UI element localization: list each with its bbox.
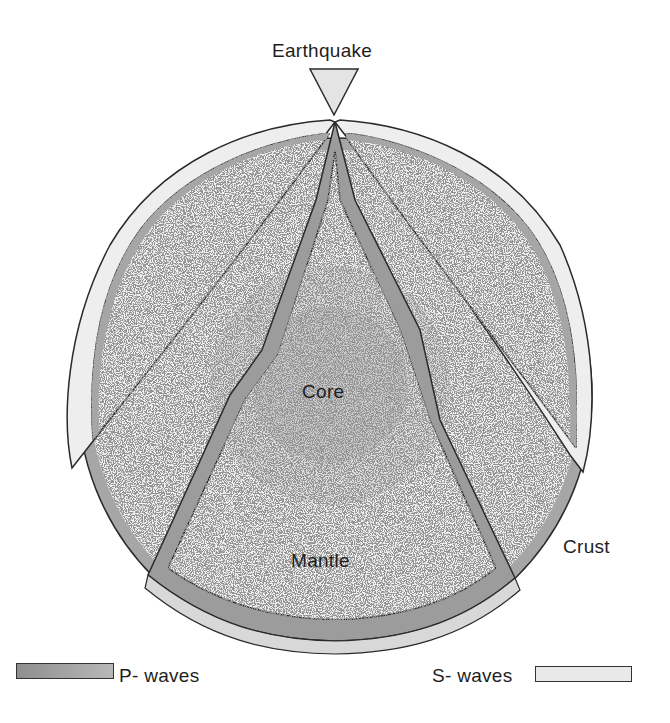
s-wave-legend-label: S- waves [432, 665, 513, 687]
p-wave-legend-swatch [16, 663, 114, 679]
earthquake-label: Earthquake [272, 40, 372, 62]
mantle-label: Mantle [291, 550, 350, 572]
crust-label: Crust [563, 536, 610, 558]
earth-diagram [0, 0, 670, 723]
p-wave-legend-label: P- waves [119, 665, 200, 687]
s-wave-legend-swatch [535, 666, 632, 682]
earthquake-epicenter-icon [310, 69, 358, 115]
core-label: Core [302, 381, 344, 403]
